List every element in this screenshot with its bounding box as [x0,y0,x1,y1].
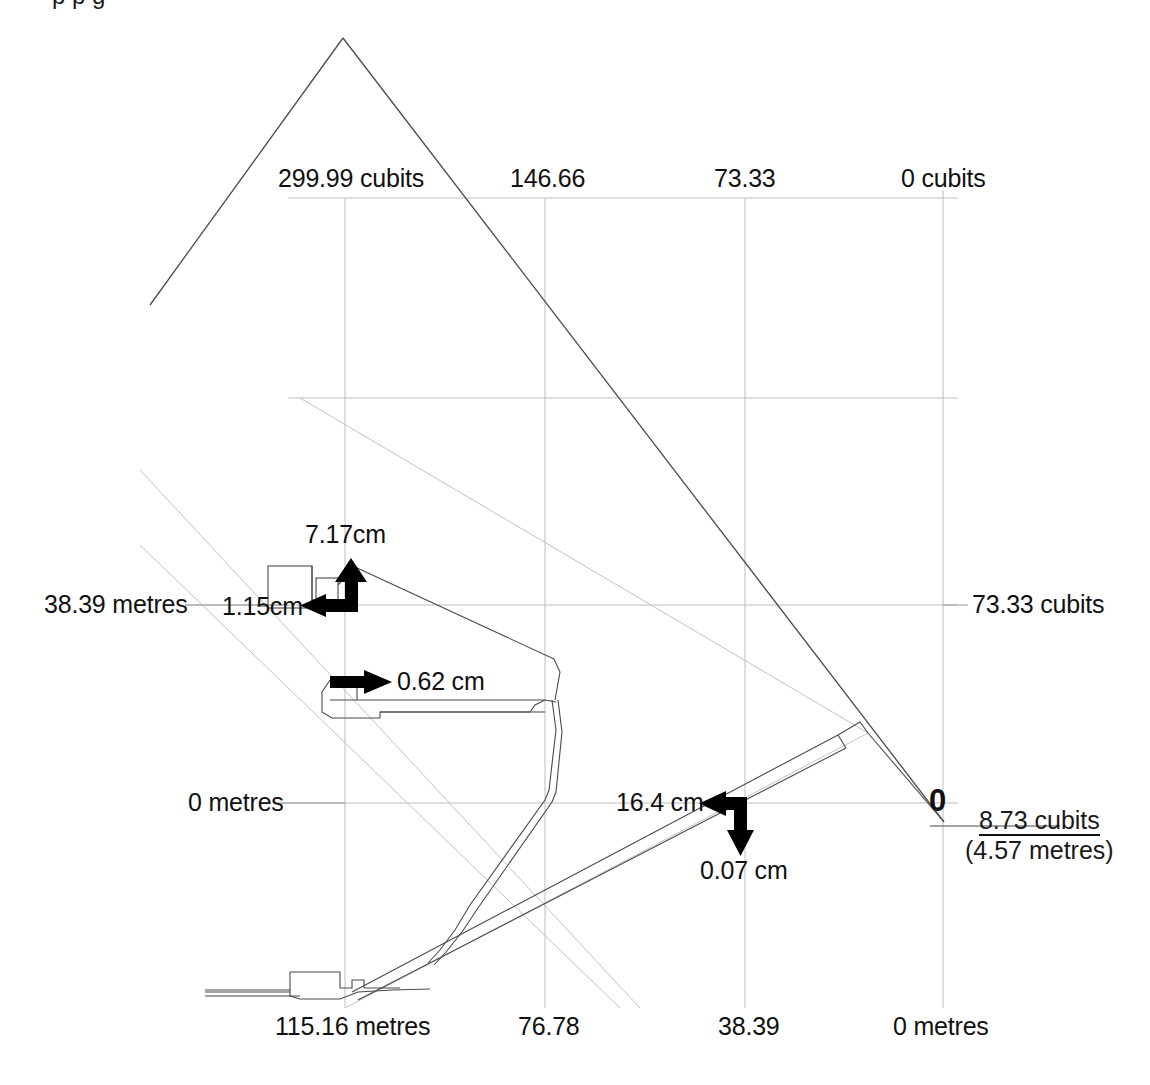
measurement-label-0-07cm: 0.07 cm [700,857,788,883]
pyramid-diagram-canvas: p p g 299.99 cubits 146.66 73.33 0 cubit… [0,0,1150,1085]
bottom-tick-label-115: 115.16 metres [275,1013,430,1039]
offset-note: 8.73 cubits (4.57 metres) [965,806,1114,864]
left-tick-label-0: 0 metres [188,789,284,815]
top-tick-label-299: 299.99 cubits [278,165,424,191]
left-tick-label-38: 38.39 metres [44,591,188,617]
top-tick-label-0: 0 cubits [901,165,986,191]
bottom-tick-label-0: 0 metres [893,1013,989,1039]
bottom-tick-label-76: 76.78 [518,1013,580,1039]
internal-passages [205,566,868,1000]
tick-stubs [185,605,968,803]
origin-zero-marker: 0 [929,785,946,818]
right-tick-label-73: 73.33 cubits [972,591,1104,617]
offset-note-numerator: 8.73 cubits [979,806,1100,836]
measurement-label-0-62cm: 0.62 cm [397,668,485,694]
measurement-label-16-4cm: 16.4 cm [616,789,704,815]
construction-lines [140,398,868,1008]
offset-note-denominator: (4.57 metres) [965,836,1114,864]
clipped-header-text: p p g [52,0,105,10]
bottom-tick-label-38: 38.39 [718,1013,780,1039]
diagram-vector-layer [0,0,1150,1085]
arrow-right-0-62 [330,670,392,694]
top-tick-label-146: 146.66 [510,165,585,191]
pyramid-outline [150,38,944,822]
measurement-label-1-15cm: 1.15cm [222,593,303,619]
top-tick-label-73: 73.33 [714,165,776,191]
measurement-label-7-17cm: 7.17cm [305,521,386,547]
